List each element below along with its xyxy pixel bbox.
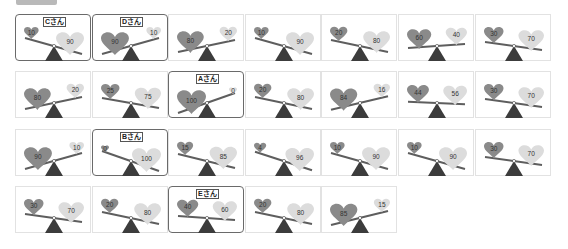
seesaw-icon: 2080 [322,15,398,62]
seesaw-icon: 2080 [93,187,169,234]
seesaw-cell[interactable]: 1090 [245,14,321,61]
svg-text:4: 4 [258,144,262,151]
seesaw-cell[interactable]: 9010Dさん [92,14,168,61]
svg-text:40: 40 [184,203,192,210]
seesaw-cell[interactable]: 3070 [475,129,551,176]
svg-text:60: 60 [221,206,229,213]
svg-text:20: 20 [259,86,267,93]
seesaw-cell[interactable]: 6040 [398,14,474,61]
svg-text:30: 30 [490,145,498,152]
svg-text:90: 90 [449,153,457,160]
seesaw-cell[interactable]: 2575 [92,71,168,118]
svg-text:80: 80 [144,209,152,216]
svg-text:25: 25 [107,87,115,94]
svg-text:20: 20 [106,201,114,208]
person-label: Aさん [196,74,219,84]
svg-text:40: 40 [453,31,461,38]
seesaw-cell[interactable]: 8020 [15,71,91,118]
seesaw-cell[interactable]: 1585 [168,129,244,176]
person-label: Eさん [196,189,219,199]
svg-text:10: 10 [411,144,419,151]
seesaw-icon: 4456 [399,72,475,119]
svg-text:90: 90 [66,38,74,45]
svg-text:80: 80 [297,209,305,216]
svg-text:20: 20 [225,29,233,36]
svg-text:10: 10 [258,29,266,36]
seesaw-icon: 6040 [399,15,475,62]
svg-text:60: 60 [416,34,424,41]
svg-text:90: 90 [111,38,119,45]
seesaw-cell[interactable]: 8416 [321,71,397,118]
svg-text:80: 80 [34,94,42,101]
seesaw-icon: 8020 [16,72,92,119]
svg-text:90: 90 [296,38,304,45]
person-label: Bさん [120,132,143,142]
seesaw-icon: 9010 [16,130,92,177]
svg-text:56: 56 [452,90,460,97]
svg-text:10: 10 [150,29,158,36]
seesaw-icon: 8515 [322,187,398,234]
seesaw-cell[interactable]: 9010 [15,129,91,176]
seesaw-cell[interactable]: 4060Eさん [168,186,244,233]
svg-text:30: 30 [490,30,498,37]
svg-text:96: 96 [296,154,304,161]
seesaw-icon: 2080 [246,187,322,234]
svg-text:90: 90 [372,153,380,160]
seesaw-icon: 3070 [16,187,92,234]
svg-text:85: 85 [220,153,228,160]
seesaw-cell[interactable]: 3070 [475,14,551,61]
seesaw-icon: 3070 [476,72,552,119]
svg-text:70: 70 [528,35,536,42]
seesaw-cell[interactable]: 8515 [321,186,397,233]
svg-text:80: 80 [373,37,381,44]
svg-text:10: 10 [334,144,342,151]
svg-text:15: 15 [181,144,189,151]
seesaw-cell[interactable]: 1090 [321,129,397,176]
seesaw-cell[interactable]: 2080 [92,186,168,233]
svg-text:70: 70 [528,92,536,99]
seesaw-icon: 1090 [399,130,475,177]
seesaw-icon: 3070 [476,15,552,62]
seesaw-cell[interactable]: 1000Aさん [168,71,244,118]
svg-text:30: 30 [490,87,498,94]
svg-text:20: 20 [259,201,267,208]
svg-text:20: 20 [72,86,80,93]
header-tab [16,0,57,5]
seesaw-icon: 1090 [322,130,398,177]
svg-text:30: 30 [30,202,38,209]
person-label: Cさん [43,17,66,27]
seesaw-icon: 3070 [476,130,552,177]
seesaw-cell[interactable]: 1090Cさん [15,14,91,61]
svg-text:0: 0 [103,145,107,152]
seesaw-cell[interactable]: 4456 [398,71,474,118]
svg-text:15: 15 [378,201,386,208]
seesaw-icon: 8020 [169,15,245,62]
svg-text:0: 0 [231,87,235,94]
seesaw-icon: 2080 [246,72,322,119]
svg-text:75: 75 [144,93,152,100]
svg-text:80: 80 [297,94,305,101]
svg-text:20: 20 [335,29,343,36]
seesaw-icon: 496 [246,130,322,177]
svg-text:80: 80 [187,37,195,44]
svg-text:10: 10 [28,29,36,36]
person-label: Dさん [120,17,143,27]
svg-text:10: 10 [73,144,81,151]
seesaw-cell[interactable]: 1090 [398,129,474,176]
seesaw-cell[interactable]: 2080 [245,186,321,233]
svg-text:44: 44 [414,89,422,96]
svg-text:85: 85 [340,210,348,217]
svg-text:70: 70 [528,150,536,157]
seesaw-icon: 8416 [322,72,398,119]
svg-text:70: 70 [68,207,76,214]
seesaw-cell[interactable]: 0100Bさん [92,129,168,176]
svg-text:84: 84 [340,94,348,101]
seesaw-icon: 1585 [169,130,245,177]
seesaw-cell[interactable]: 3070 [15,186,91,233]
seesaw-icon: 1090 [246,15,322,62]
seesaw-cell[interactable]: 2080 [245,71,321,118]
seesaw-cell[interactable]: 3070 [475,71,551,118]
seesaw-cell[interactable]: 2080 [321,14,397,61]
seesaw-cell[interactable]: 496 [245,129,321,176]
seesaw-cell[interactable]: 8020 [168,14,244,61]
